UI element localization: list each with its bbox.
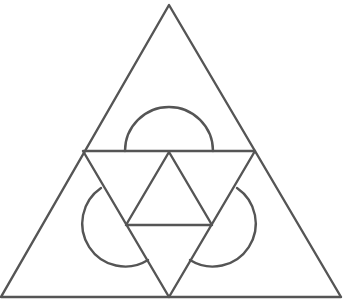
right-semicircle	[190, 188, 256, 267]
inner-triangle	[126, 152, 212, 225]
figure-svg	[0, 0, 350, 299]
left-semicircle	[82, 188, 148, 267]
geometric-figure	[0, 0, 350, 299]
top-semicircle	[125, 107, 213, 151]
